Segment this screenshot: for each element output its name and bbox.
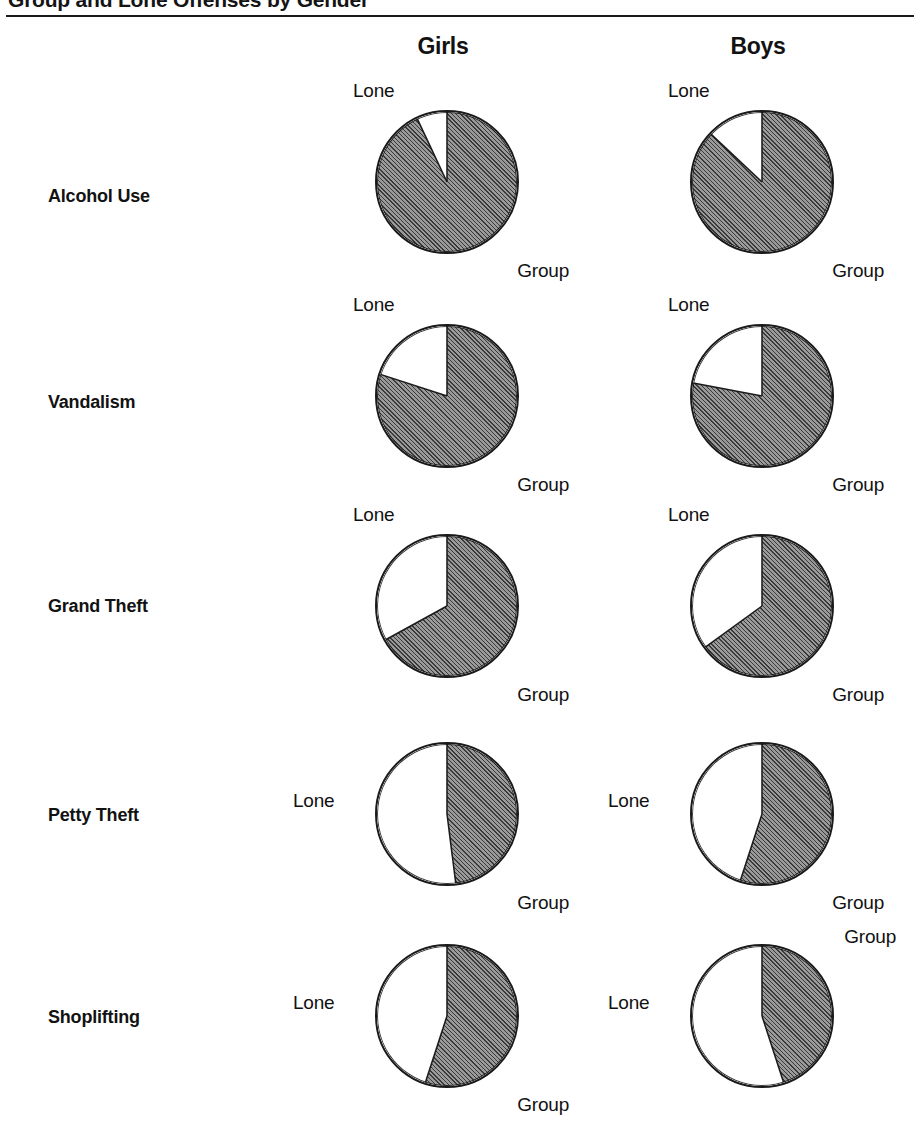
pie-slice-dividers (377, 946, 517, 1086)
pie-label-group: Group (517, 474, 569, 496)
pie-label-group: Group (832, 260, 884, 282)
pie-chart (690, 324, 834, 468)
pie-label-lone: Lone (353, 80, 394, 102)
pie-chart (375, 110, 519, 254)
pie-slice-dividers (692, 536, 832, 676)
pie-slice-dividers (377, 536, 517, 676)
pie-label-group: Group (517, 260, 569, 282)
figure-page: Group and Lone Offenses by Gender Girls … (0, 0, 920, 1131)
pie-slice-dividers (692, 112, 832, 252)
pie-slice-dividers (377, 326, 517, 466)
row-label-shoplifting: Shoplifting (48, 1007, 298, 1028)
pie-slice-dividers (377, 112, 517, 252)
pie-chart (690, 110, 834, 254)
pie-chart (690, 534, 834, 678)
pie-chart (690, 742, 834, 886)
figure-title-clip: Group and Lone Offenses by Gender (0, 0, 920, 16)
pie-label-group: Group (517, 892, 569, 914)
pie-label-lone: Lone (668, 504, 709, 526)
page-title: Group and Lone Offenses by Gender (8, 0, 369, 12)
pie-label-group: Group (517, 1094, 569, 1116)
pie-slice-dividers (692, 744, 832, 884)
pie-cell-shoplifting-boys: LoneGroup (662, 920, 862, 1120)
pie-chart (375, 742, 519, 886)
pie-cell-alcohol-use-boys: LoneGroup (662, 86, 862, 286)
column-header-boys: Boys (678, 33, 838, 60)
pie-label-lone: Lone (353, 504, 394, 526)
pie-cell-petty-theft-boys: LoneGroup (662, 718, 862, 918)
pie-cell-grand-theft-boys: LoneGroup (662, 510, 862, 710)
pie-label-group: Group (517, 684, 569, 706)
row-label-petty-theft: Petty Theft (48, 805, 298, 826)
pie-cell-vandalism-girls: LoneGroup (347, 300, 547, 500)
pie-chart (375, 944, 519, 1088)
pie-slice-dividers (377, 744, 517, 884)
column-header-girls: Girls (363, 33, 523, 60)
pie-label-lone: Lone (353, 294, 394, 316)
pie-label-lone: Lone (668, 80, 709, 102)
pie-slice-dividers (692, 946, 832, 1086)
pie-label-lone: Lone (608, 992, 649, 1014)
row-label-alcohol-use: Alcohol Use (48, 186, 298, 207)
row-label-vandalism: Vandalism (48, 392, 298, 413)
pie-label-group: Group (832, 892, 884, 914)
title-divider (6, 15, 914, 17)
pie-label-lone: Lone (293, 992, 334, 1014)
pie-label-lone: Lone (668, 294, 709, 316)
pie-cell-alcohol-use-girls: LoneGroup (347, 86, 547, 286)
pie-label-group: Group (832, 474, 884, 496)
pie-cell-vandalism-boys: LoneGroup (662, 300, 862, 500)
pie-cell-shoplifting-girls: LoneGroup (347, 920, 547, 1120)
pie-label-group: Group (844, 926, 896, 948)
pie-label-lone: Lone (608, 790, 649, 812)
pie-cell-grand-theft-girls: LoneGroup (347, 510, 547, 710)
pie-label-lone: Lone (293, 790, 334, 812)
pie-chart (690, 944, 834, 1088)
pie-chart (375, 534, 519, 678)
pie-cell-petty-theft-girls: LoneGroup (347, 718, 547, 918)
pie-slice-dividers (692, 326, 832, 466)
pie-label-group: Group (832, 684, 884, 706)
row-label-grand-theft: Grand Theft (48, 596, 298, 617)
pie-chart (375, 324, 519, 468)
